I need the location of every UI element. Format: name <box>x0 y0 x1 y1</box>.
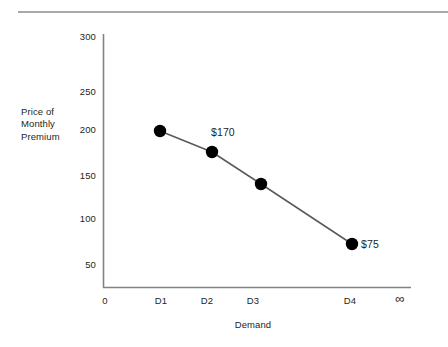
y-tick-label-300: 300 <box>62 31 96 42</box>
y-axis-title: Price of Monthly Premium <box>21 106 60 143</box>
y-tick-label-150: 150 <box>62 170 96 181</box>
annotation-d2-price: $170 <box>211 126 235 138</box>
y-axis-title-line-3: Premium <box>21 131 60 143</box>
x-tick-label-d4: D4 <box>330 295 370 306</box>
x-tick-label-infinity: ∞ <box>380 294 420 304</box>
data-point-d3[interactable] <box>255 178 267 190</box>
data-point-d4[interactable] <box>346 238 358 250</box>
annotation-d4-price: $75 <box>361 238 379 250</box>
data-point-d2[interactable] <box>206 146 218 158</box>
data-point-d1[interactable] <box>154 125 166 137</box>
x-tick-label-d1: D1 <box>141 295 181 306</box>
x-axis-title: Demand <box>213 319 293 330</box>
x-tick-label-d3: D3 <box>233 295 273 306</box>
y-tick-label-250: 250 <box>62 86 96 97</box>
y-tick-label-100: 100 <box>62 213 96 224</box>
chart-canvas: 300 250 200 150 100 50 0 D1 D2 D3 D4 ∞ P… <box>0 0 448 347</box>
y-axis-title-line-1: Price of <box>21 106 60 118</box>
y-tick-label-50: 50 <box>62 259 96 270</box>
y-axis-title-line-2: Monthly <box>21 118 60 130</box>
y-tick-label-200: 200 <box>62 124 96 135</box>
x-tick-label-d2: D2 <box>187 295 227 306</box>
x-tick-label-0: 0 <box>85 295 125 306</box>
